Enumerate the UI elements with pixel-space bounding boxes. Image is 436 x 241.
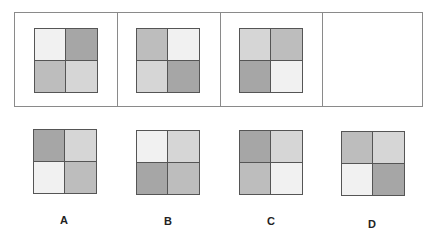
grid-cell-light: [240, 29, 271, 61]
option-d-label[interactable]: D: [362, 218, 382, 230]
option-c-grid[interactable]: [239, 130, 303, 195]
grid-cell-dark: [240, 61, 271, 93]
grid-cell-medium: [137, 29, 168, 61]
grid-cell-light: [168, 131, 199, 163]
option-b-grid[interactable]: [136, 130, 200, 195]
grid-cell-light: [66, 61, 97, 93]
option-a-grid[interactable]: [33, 129, 97, 194]
option-c-label[interactable]: C: [261, 215, 281, 227]
grid-cell-lightest: [168, 29, 199, 61]
option-b-label[interactable]: B: [158, 215, 178, 227]
grid-cell-light: [373, 132, 404, 164]
grid-cell-medium: [271, 29, 302, 61]
grid-cell-lightest: [137, 131, 168, 163]
grid-cell-dark: [137, 163, 168, 195]
sequence-panel-3: [239, 28, 303, 93]
grid-cell-dark: [66, 29, 97, 61]
option-a-label[interactable]: A: [54, 214, 74, 226]
grid-cell-dark: [373, 164, 404, 196]
grid-cell-light: [271, 131, 302, 163]
grid-cell-medium: [240, 163, 271, 195]
grid-cell-medium: [35, 61, 66, 93]
grid-cell-lightest: [271, 61, 302, 93]
sequence-panel-2: [136, 28, 200, 93]
grid-cell-lightest: [34, 162, 65, 194]
grid-cell-dark: [168, 61, 199, 93]
grid-cell-dark: [240, 131, 271, 163]
sequence-panel-1: [34, 28, 98, 93]
sequence-panel-missing: [323, 13, 422, 106]
grid-cell-medium: [168, 163, 199, 195]
grid-cell-medium: [342, 132, 373, 164]
sequence-divider: [220, 12, 221, 107]
grid-cell-light: [137, 61, 168, 93]
grid-cell-lightest: [342, 164, 373, 196]
grid-cell-medium: [65, 162, 96, 194]
sequence-divider: [117, 12, 118, 107]
grid-cell-dark: [34, 130, 65, 162]
grid-cell-lightest: [35, 29, 66, 61]
grid-cell-lightest: [271, 163, 302, 195]
grid-cell-light: [65, 130, 96, 162]
option-d-grid[interactable]: [341, 131, 405, 196]
